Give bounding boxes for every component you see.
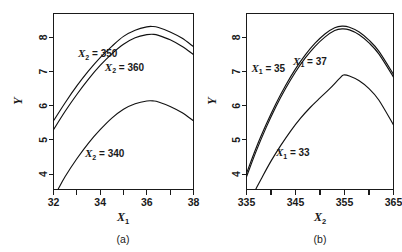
panel-a-x-tick-labels: 32343638	[48, 196, 200, 208]
y-tick-label: 7	[38, 69, 50, 75]
response-curve	[247, 29, 394, 177]
x-tick-label: 32	[48, 196, 60, 208]
panel-b-x-tick-marks	[247, 190, 394, 195]
chart-panel-b: 335345355365 45678 X1 = 35X1 = 37X1 = 33…	[201, 0, 402, 252]
panel-b-svg: 335345355365 45678 X1 = 35X1 = 37X1 = 33…	[201, 0, 402, 252]
two-panel-response-curve-figure: 32343638 45678 X2 = 350X2 = 360X2 = 340 …	[0, 0, 402, 252]
panel-a-svg: 32343638 45678 X2 = 350X2 = 360X2 = 340 …	[0, 0, 201, 252]
panel-b-curve-annotations: X1 = 35X1 = 37X1 = 33	[250, 55, 327, 160]
y-tick-label: 4	[231, 171, 243, 177]
panel-b-caption: (b)	[314, 233, 327, 245]
svg-text:Y: Y	[205, 96, 219, 105]
curve-label: X1 = 35	[250, 62, 285, 76]
svg-text:(b): (b)	[314, 233, 327, 245]
svg-text:X1: X1	[116, 210, 129, 226]
y-tick-label: 6	[231, 103, 243, 109]
panel-a-x-axis-title: X1	[116, 210, 129, 226]
curve-label: X1 = 33	[275, 146, 310, 160]
panel-a-caption: (a)	[117, 233, 130, 245]
y-tick-label: 6	[38, 103, 50, 109]
x-tick-label: 38	[188, 196, 200, 208]
response-curve	[58, 101, 193, 189]
panel-b-x-tick-labels: 335345355365	[238, 196, 402, 208]
panel-b-plot-frame	[247, 14, 394, 190]
panel-b-curves	[247, 26, 394, 189]
response-curve	[54, 34, 194, 129]
x-tick-label: 355	[336, 196, 354, 208]
svg-text:(a): (a)	[117, 233, 130, 245]
panel-a-y-axis-title: Y	[11, 96, 25, 105]
y-tick-label: 5	[38, 137, 50, 143]
curve-label: X2 = 340	[84, 147, 125, 161]
chart-panel-a: 32343638 45678 X2 = 350X2 = 360X2 = 340 …	[0, 0, 201, 252]
x-tick-label: 345	[287, 196, 305, 208]
panel-a-curves	[54, 26, 194, 189]
y-tick-label: 8	[231, 34, 243, 40]
x-tick-label: 365	[385, 196, 402, 208]
x-tick-label: 335	[238, 196, 256, 208]
y-tick-label: 8	[38, 34, 50, 40]
curve-label: X1 = 37	[292, 55, 327, 69]
panel-b-x-axis-title: X2	[313, 210, 326, 226]
x-tick-label: 36	[141, 196, 153, 208]
curve-label: X2 = 350	[77, 47, 118, 61]
panel-a-y-tick-labels: 45678	[38, 34, 50, 177]
y-tick-label: 5	[231, 137, 243, 143]
svg-text:X2: X2	[313, 210, 326, 226]
panel-a-x-tick-marks	[54, 190, 194, 195]
response-curve	[247, 26, 394, 173]
y-tick-label: 4	[38, 171, 50, 177]
panel-b-y-tick-labels: 45678	[231, 34, 243, 177]
panel-b-y-axis-title: Y	[205, 96, 219, 105]
x-tick-label: 34	[94, 196, 106, 208]
y-tick-label: 7	[231, 69, 243, 75]
curve-label: X2 = 360	[104, 61, 145, 75]
response-curve	[256, 75, 394, 189]
svg-text:Y: Y	[11, 96, 25, 105]
